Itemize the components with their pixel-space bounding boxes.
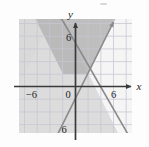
origin-label: 0 — [65, 89, 70, 100]
y-tick-label-positive-6: 6 — [66, 32, 71, 43]
scan-artifact-speck — [100, 3, 107, 5]
x-tick-label-positive-6: 6 — [111, 89, 116, 100]
y-tick-label-negative-6: 6 — [61, 124, 66, 135]
x-tick-label-negative-6: −6 — [26, 89, 37, 100]
y-axis-label: y — [67, 8, 73, 20]
x-axis-label: x — [136, 80, 142, 92]
graph-figure: x y −6 6 0 6 6 — [0, 0, 149, 147]
coordinate-plane-svg: x y −6 6 0 6 6 — [0, 0, 149, 147]
